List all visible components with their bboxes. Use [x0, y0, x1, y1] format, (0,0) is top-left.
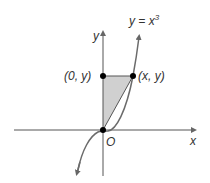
curve-label: y = x3 — [128, 13, 160, 28]
point-on-curve — [130, 73, 136, 79]
point-on-curve-label: (x, y) — [138, 69, 165, 83]
origin-label: O — [106, 135, 115, 149]
y-axis-label: y — [92, 29, 100, 43]
cubic-graph-figure: y = x3 y x O (0, y) (x, y) — [0, 0, 210, 183]
x-axis-label: x — [189, 134, 197, 148]
point-on-axis — [100, 73, 106, 79]
point-origin — [100, 127, 106, 133]
point-on-axis-label: (0, y) — [64, 69, 91, 83]
curve-start-arrow — [77, 162, 80, 173]
